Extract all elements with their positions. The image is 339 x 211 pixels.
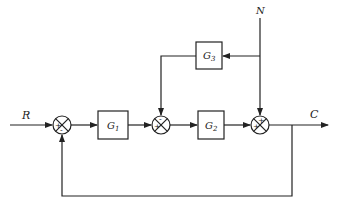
block-g2-label: G2 [205, 120, 218, 133]
output-label: C [310, 108, 319, 121]
s2-sign-top: - [159, 115, 162, 124]
block-g1-label: G1 [107, 120, 119, 133]
feedback-line [62, 125, 292, 196]
block-diagram: R C N G1 G2 G3 + - + - + + [0, 0, 339, 211]
block-g3-label: G3 [203, 50, 216, 63]
s1-sign-bottom: - [60, 126, 63, 135]
disturbance-label: N [255, 5, 266, 16]
s3-sign-top: + [258, 116, 265, 125]
input-label: R [21, 109, 30, 122]
